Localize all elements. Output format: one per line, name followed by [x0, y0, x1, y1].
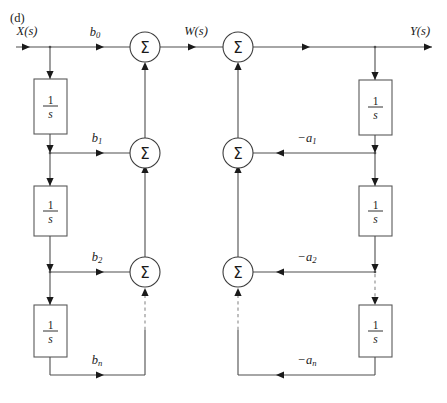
bn-riser-arrowhead — [141, 288, 148, 296]
coefficient-label-a1: −a1 — [298, 131, 317, 146]
w-signal-wire-group — [160, 43, 223, 50]
panel-label: (d) — [10, 11, 25, 25]
a1-branch-group — [253, 149, 375, 156]
input-signal-label: X(s) — [16, 24, 38, 38]
integrator-block-right-1 — [359, 80, 392, 135]
intermediate-signal-label: W(s) — [184, 24, 208, 38]
left-integrator-chain: 1 s 1 s 1 s — [34, 47, 67, 375]
output-wire-group — [253, 43, 432, 50]
b1-branch-group — [50, 149, 130, 156]
sum-forward-0: Σ — [130, 32, 160, 62]
integrator-denominator-l1: s — [48, 108, 53, 120]
signal-flow-diagram: (d) X(s) b0 W(s) Y(s) — [0, 0, 447, 403]
coefficient-label-b2: b2 — [92, 250, 103, 265]
right-arrow-in-1 — [371, 72, 378, 80]
integrator-denominator-r1: s — [373, 109, 378, 121]
output-arrowhead-mid — [302, 43, 310, 50]
a2-arrowhead — [276, 268, 284, 275]
coefficient-label-b0: b0 — [90, 25, 101, 40]
coefficient-label-a2: −a2 — [298, 250, 318, 265]
input-wire-group — [16, 43, 130, 50]
left-arrow-in-2 — [46, 178, 53, 186]
integrator-denominator-l2: s — [48, 213, 53, 225]
a2-branch-group — [253, 268, 375, 275]
input-arrowhead — [22, 43, 30, 50]
sum-feedback-1: Σ — [223, 138, 253, 168]
coefficient-label-bn: bn — [92, 353, 103, 368]
sum-forward-2-symbol: Σ — [140, 264, 149, 282]
an-arrowhead — [276, 371, 284, 378]
integrator-numerator-l1: 1 — [48, 94, 54, 106]
output-arrowhead-end — [424, 43, 432, 50]
b0-arrowhead — [96, 43, 104, 50]
sum-forward-0-symbol: Σ — [140, 39, 149, 57]
sum-feedback-2-symbol: Σ — [233, 264, 242, 282]
coefficient-label-b1: b1 — [92, 131, 103, 146]
sum-forward-2: Σ — [130, 257, 160, 287]
integrator-block-left-1 — [34, 79, 67, 134]
integrator-denominator-r3: s — [373, 333, 378, 345]
bn-arrowhead — [96, 371, 104, 378]
w-arrowhead — [188, 43, 196, 50]
riser-arrow-fb-sum0 — [234, 62, 241, 70]
integrator-denominator-r2: s — [373, 213, 378, 225]
a1-arrowhead — [276, 149, 284, 156]
coefficient-label-an: −an — [298, 353, 317, 368]
b1-arrowhead — [96, 149, 104, 156]
block-diagram-figure: (d) X(s) b0 W(s) Y(s) — [0, 0, 447, 403]
right-integrator-chain: 1 s 1 s 1 s — [359, 47, 392, 375]
b2-arrowhead — [96, 268, 104, 275]
integrator-numerator-r2: 1 — [373, 199, 379, 211]
sum-forward-1: Σ — [130, 138, 160, 168]
output-signal-label: Y(s) — [410, 24, 430, 38]
left-arrow-in-3 — [46, 297, 53, 305]
sum-forward-1-symbol: Σ — [140, 145, 149, 163]
b2-branch-group — [50, 268, 130, 275]
sum-feedback-0-symbol: Σ — [233, 39, 242, 57]
integrator-numerator-r3: 1 — [373, 319, 379, 331]
an-riser-arrowhead — [234, 288, 241, 296]
left-arrow-in-1 — [46, 71, 53, 79]
sum-feedback-1-symbol: Σ — [233, 145, 242, 163]
riser-arrow-sum0 — [141, 62, 148, 70]
right-arrow-in-2 — [371, 178, 378, 186]
integrator-numerator-r1: 1 — [373, 95, 379, 107]
integrator-numerator-l3: 1 — [48, 319, 54, 331]
integrator-numerator-l2: 1 — [48, 199, 54, 211]
sum-feedback-0: Σ — [223, 32, 253, 62]
right-arrow-in-3 — [371, 297, 378, 305]
integrator-denominator-l3: s — [48, 333, 53, 345]
sum-feedback-2: Σ — [223, 257, 253, 287]
